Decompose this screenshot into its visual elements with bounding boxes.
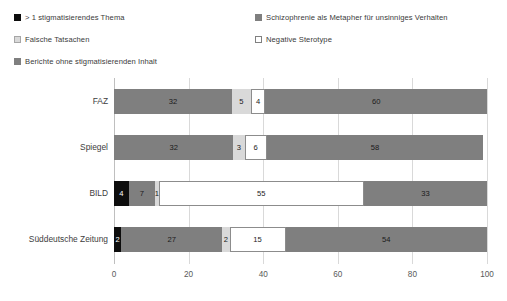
bar-segment-value: 3 bbox=[237, 144, 241, 152]
bar-row[interactable]: 4715533 bbox=[114, 181, 487, 206]
category-label: Süddeutsche Zeitung bbox=[0, 227, 108, 252]
bar-segment[interactable]: 58 bbox=[267, 135, 483, 160]
chart-plot-area: FAZSpiegelBILDSüddeutsche Zeitung 325460… bbox=[0, 78, 507, 301]
legend-swatch-icon bbox=[255, 14, 262, 21]
bar-segment[interactable]: 4 bbox=[251, 89, 266, 114]
bar-segment-value: 54 bbox=[382, 236, 390, 244]
bar-segment-value: 2 bbox=[116, 236, 120, 244]
legend-label: Falsche Tatsachen bbox=[25, 36, 89, 44]
legend-item[interactable]: Negative Sterotype bbox=[255, 36, 332, 44]
bar-row[interactable]: 323658 bbox=[114, 135, 487, 160]
bar-segment-value: 55 bbox=[257, 190, 265, 198]
bar-segment[interactable]: 2 bbox=[114, 227, 121, 252]
chart-root: > 1 stigmatisierendes ThemaSchizophrenie… bbox=[0, 0, 507, 301]
bar-segment[interactable]: 15 bbox=[230, 227, 286, 252]
category-label: BILD bbox=[0, 181, 108, 206]
legend-label: Berichte ohne stigmatisierenden Inhalt bbox=[25, 58, 157, 66]
bar-segment[interactable]: 27 bbox=[121, 227, 222, 252]
bar-row[interactable]: 325460 bbox=[114, 89, 487, 114]
category-label: FAZ bbox=[0, 89, 108, 114]
x-axis: 020406080100 bbox=[114, 264, 487, 288]
gridline bbox=[487, 78, 488, 264]
bar-segment-value: 4 bbox=[119, 190, 123, 198]
bar-segment-value: 60 bbox=[372, 98, 380, 106]
legend-swatch-icon bbox=[255, 36, 262, 43]
bar-row[interactable]: 22721554 bbox=[114, 227, 487, 252]
bar-segment[interactable]: 60 bbox=[265, 89, 487, 114]
category-label: Spiegel bbox=[0, 135, 108, 160]
legend-label: Negative Sterotype bbox=[266, 36, 332, 44]
bars-container: 325460323658471553322721554 bbox=[114, 78, 487, 264]
bar-segment-value: 32 bbox=[169, 144, 177, 152]
x-axis-tick-label: 60 bbox=[333, 270, 342, 279]
bar-segment-value: 5 bbox=[239, 98, 243, 106]
legend-swatch-icon bbox=[14, 58, 21, 65]
bar-segment-value: 27 bbox=[168, 236, 176, 244]
legend-swatch-icon bbox=[14, 36, 21, 43]
bar-segment-value: 4 bbox=[256, 98, 260, 106]
bar-segment[interactable]: 4 bbox=[114, 181, 129, 206]
legend-item[interactable]: Berichte ohne stigmatisierenden Inhalt bbox=[14, 58, 157, 66]
bar-segment-value: 6 bbox=[254, 144, 258, 152]
category-axis-labels: FAZSpiegelBILDSüddeutsche Zeitung bbox=[0, 78, 108, 264]
bar-segment[interactable]: 6 bbox=[245, 135, 267, 160]
bar-segment-value: 58 bbox=[371, 144, 379, 152]
legend-item[interactable]: Schizophrenie als Metapher für unsinnige… bbox=[255, 14, 448, 22]
bar-segment[interactable]: 7 bbox=[129, 181, 155, 206]
x-axis-tick-label: 20 bbox=[184, 270, 193, 279]
bar-segment[interactable]: 32 bbox=[114, 135, 233, 160]
bar-segment-value: 15 bbox=[253, 236, 261, 244]
bar-segment[interactable]: 32 bbox=[114, 89, 232, 114]
bar-segment[interactable]: 55 bbox=[159, 181, 364, 206]
legend-label: > 1 stigmatisierendes Thema bbox=[25, 14, 125, 22]
legend-item[interactable]: > 1 stigmatisierendes Thema bbox=[14, 14, 125, 22]
x-axis-tick-label: 80 bbox=[408, 270, 417, 279]
bar-segment[interactable]: 5 bbox=[232, 89, 250, 114]
bar-segment-value: 32 bbox=[169, 98, 177, 106]
chart-legend: > 1 stigmatisierendes ThemaSchizophrenie… bbox=[0, 0, 507, 78]
legend-swatch-icon bbox=[14, 14, 21, 21]
bar-segment[interactable]: 33 bbox=[364, 181, 487, 206]
bar-segment[interactable]: 2 bbox=[222, 227, 229, 252]
x-axis-tick-label: 0 bbox=[112, 270, 117, 279]
bar-segment-value: 33 bbox=[421, 190, 429, 198]
legend-label: Schizophrenie als Metapher für unsinnige… bbox=[266, 14, 448, 22]
bar-segment[interactable]: 3 bbox=[233, 135, 244, 160]
bar-segment[interactable]: 54 bbox=[286, 227, 487, 252]
x-axis-tick-label: 100 bbox=[480, 270, 494, 279]
x-axis-tick-label: 40 bbox=[259, 270, 268, 279]
bar-segment-value: 7 bbox=[140, 190, 144, 198]
legend-item[interactable]: Falsche Tatsachen bbox=[14, 36, 89, 44]
bar-segment-value: 2 bbox=[224, 236, 228, 244]
